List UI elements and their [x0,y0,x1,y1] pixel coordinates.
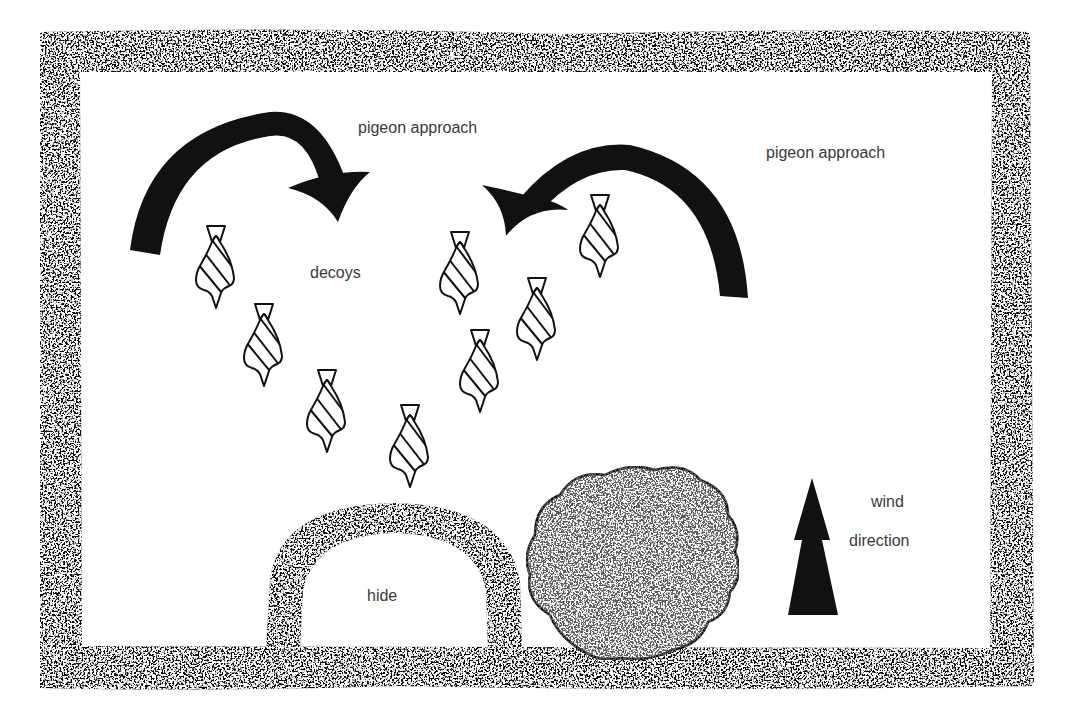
approach-arrow-right-icon [482,145,748,298]
hide-label: hide [367,588,397,604]
decoy-icon [580,195,620,277]
decoy-icon [307,370,347,452]
decoy-icon [390,405,430,487]
decoy-icon [440,232,480,314]
pigeon-approach-label-left: pigeon approach [358,120,477,136]
wind-direction-arrow-icon [788,478,838,615]
decoy-icon [244,304,284,386]
decoy-icon [517,278,557,360]
wind-label: wind [871,494,904,510]
hide-icon [266,503,522,650]
pigeon-approach-label-right: pigeon approach [766,145,885,161]
decoy-icon [460,330,500,412]
direction-label: direction [849,533,909,549]
pigeon-decoy-diagram [0,0,1066,722]
decoy-group [196,195,620,487]
bush-icon [527,467,739,660]
decoy-icon [196,226,236,308]
approach-arrow-left-icon [130,112,370,255]
decoys-label: decoys [310,265,361,281]
